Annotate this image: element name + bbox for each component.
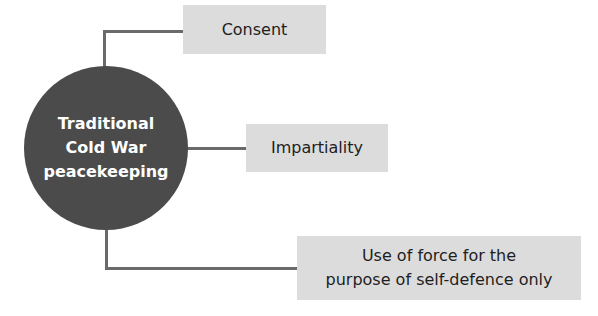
connector-use-of-force-horizontal xyxy=(105,267,298,270)
branch-label-use-of-force-line-2: purpose of self-defence only xyxy=(326,268,553,292)
central-node-line-2: Cold War xyxy=(43,136,168,160)
central-node-line-1: Traditional xyxy=(43,112,168,136)
branch-box-impartiality: Impartiality xyxy=(246,124,388,172)
central-node-label: Traditional Cold War peacekeeping xyxy=(43,112,168,184)
central-node-traditional-peacekeeping: Traditional Cold War peacekeeping xyxy=(24,66,188,230)
branch-label-use-of-force-line-1: Use of force for the xyxy=(326,244,553,268)
branch-box-use-of-force: Use of force for the purpose of self-def… xyxy=(297,236,581,300)
connector-use-of-force-vertical xyxy=(105,228,108,270)
branch-label-impartiality: Impartiality xyxy=(271,136,363,160)
branch-box-consent: Consent xyxy=(183,5,326,54)
branch-label-consent: Consent xyxy=(222,18,288,42)
central-node-line-3: peacekeeping xyxy=(43,160,168,184)
branch-label-use-of-force: Use of force for the purpose of self-def… xyxy=(326,244,553,292)
connector-impartiality xyxy=(186,147,247,150)
connector-consent-horizontal xyxy=(103,30,184,33)
connector-consent-vertical xyxy=(103,30,106,68)
